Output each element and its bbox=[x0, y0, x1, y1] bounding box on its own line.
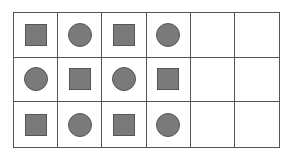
grid-cell-r3-c3 bbox=[102, 102, 146, 147]
grid-cell-r1-c4 bbox=[147, 13, 191, 58]
circle-icon bbox=[112, 67, 136, 91]
grid-cell-r1-c6 bbox=[235, 13, 279, 58]
square-icon bbox=[25, 24, 47, 46]
square-icon bbox=[113, 114, 135, 136]
circle-icon bbox=[156, 113, 180, 137]
pattern-grid bbox=[13, 12, 280, 148]
circle-icon bbox=[24, 67, 48, 91]
grid-cell-r1-c3 bbox=[102, 13, 146, 58]
grid-cell-r2-c1 bbox=[14, 58, 58, 103]
circle-icon bbox=[156, 23, 180, 47]
grid-cell-r3-c1 bbox=[14, 102, 58, 147]
grid-cell-r2-c3 bbox=[102, 58, 146, 103]
grid-cell-r2-c6 bbox=[235, 58, 279, 103]
grid-cell-r3-c5 bbox=[191, 102, 235, 147]
grid-cell-r3-c2 bbox=[58, 102, 102, 147]
circle-icon bbox=[68, 23, 92, 47]
square-icon bbox=[25, 114, 47, 136]
grid-cell-r2-c2 bbox=[58, 58, 102, 103]
grid-cell-r2-c4 bbox=[147, 58, 191, 103]
grid-cell-r3-c6 bbox=[235, 102, 279, 147]
square-icon bbox=[113, 24, 135, 46]
square-icon bbox=[69, 68, 91, 90]
grid-cell-r3-c4 bbox=[147, 102, 191, 147]
grid-cell-r1-c5 bbox=[191, 13, 235, 58]
square-icon bbox=[157, 68, 179, 90]
grid-cell-r2-c5 bbox=[191, 58, 235, 103]
grid-cell-r1-c2 bbox=[58, 13, 102, 58]
circle-icon bbox=[68, 113, 92, 137]
grid-cell-r1-c1 bbox=[14, 13, 58, 58]
